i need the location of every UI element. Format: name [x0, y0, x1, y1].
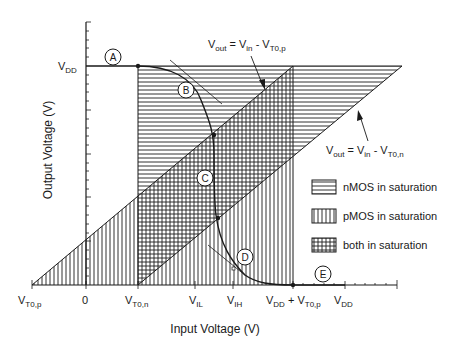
svg-text:B: B	[183, 85, 190, 96]
legend-item-pmos: pMOS in saturation	[312, 209, 437, 223]
point-a-label: A	[105, 49, 121, 65]
legend-item-both: both in saturation	[312, 238, 427, 252]
svg-text:both in saturation: both in saturation	[343, 239, 427, 251]
svg-text:nMOS in saturation: nMOS in saturation	[343, 181, 437, 193]
x-tick-vil: VIL	[189, 294, 204, 309]
point-b-label: B	[178, 82, 194, 98]
svg-text:A: A	[110, 52, 117, 63]
point-d-label: D	[237, 249, 253, 265]
legend-item-nmos: nMOS in saturation	[312, 180, 437, 194]
x-tick-vih: VIH	[227, 294, 243, 309]
svg-text:D: D	[241, 252, 248, 263]
point-c-label: C	[197, 170, 213, 186]
x-tick-vdd: VDD	[334, 294, 353, 309]
svg-text:E: E	[320, 269, 327, 280]
vtc-diagram: A B C D E VDD VT0,p 0 VT0,n VIL VIH VDD …	[0, 0, 452, 358]
arrowhead-n	[357, 110, 363, 121]
legend: nMOS in saturation pMOS in saturation bo…	[312, 180, 437, 252]
x-axis-title: Input Voltage (V)	[170, 322, 259, 336]
annotation-line-n: Vout = Vin - VT0,n	[326, 144, 404, 159]
point-e-label: E	[315, 266, 331, 282]
x-tick-vt0n: VT0,n	[125, 294, 148, 309]
x-tick-vt0p: VT0,p	[18, 294, 42, 309]
y-axis-title: Output Voltage (V)	[41, 101, 55, 200]
svg-text:C: C	[201, 173, 208, 184]
x-tick-vdd-plus-vt0p: VDD + VT0,p	[266, 294, 321, 309]
svg-text:pMOS in saturation: pMOS in saturation	[343, 210, 437, 222]
x-tick-zero: 0	[82, 294, 88, 306]
annotation-line-p: Vout = Vin - VT0,p	[208, 38, 286, 53]
y-tick-vdd: VDD	[58, 60, 77, 75]
